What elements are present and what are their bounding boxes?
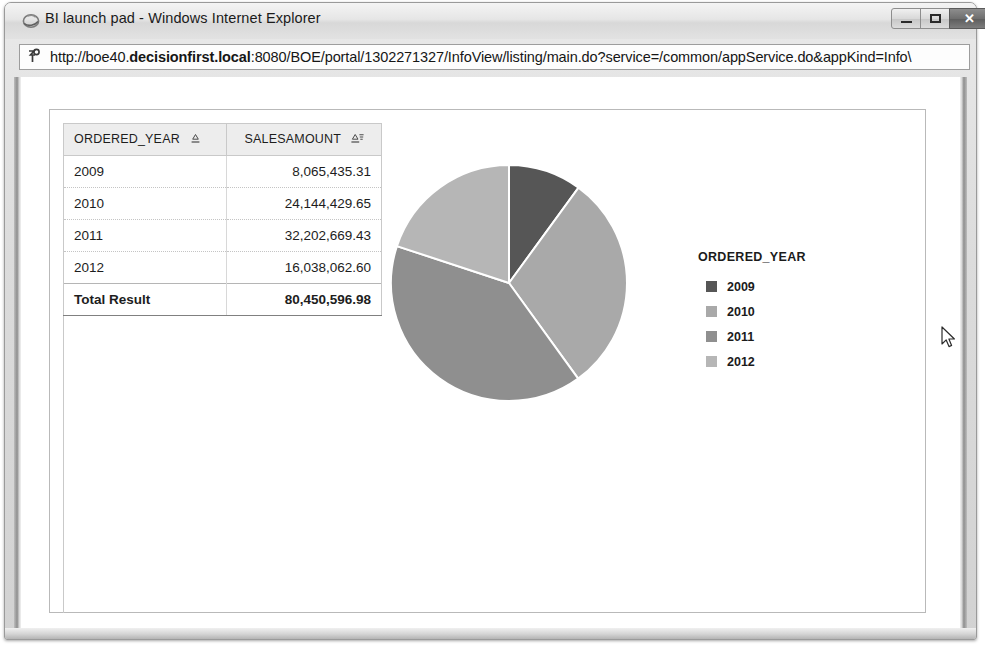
close-button[interactable]: ✕ [949, 8, 985, 29]
browser-window: BI launch pad - Windows Internet Explore… [4, 2, 977, 640]
sort-ascending-icon[interactable] [190, 133, 201, 147]
window-bottom-chrome [5, 628, 976, 639]
legend-item-label: 2009 [727, 280, 755, 294]
cell-total-label: Total Result [64, 284, 227, 316]
legend-swatch-icon [706, 306, 717, 317]
url-domain: decisionfirst.local [129, 49, 250, 65]
cell-total-amount: 80,450,596.98 [227, 284, 382, 316]
legend-swatch-icon [706, 331, 717, 342]
table-body: 20098,065,435.31201024,144,429.65201132,… [64, 156, 382, 316]
legend-item-label: 2011 [727, 330, 754, 344]
cell-ordered-year: 2011 [64, 220, 227, 252]
table-row[interactable]: 201216,038,062.60 [64, 252, 382, 284]
maximize-button[interactable] [920, 8, 950, 29]
table-header: ORDERED_YEAR SALESAMOUNT [64, 124, 382, 156]
page-favicon-icon [26, 48, 46, 66]
maximize-icon [930, 14, 941, 23]
cell-ordered-year: 2009 [64, 156, 227, 188]
cell-salesamount: 16,038,062.60 [227, 252, 382, 284]
column-header-ordered-year[interactable]: ORDERED_YEAR [64, 124, 227, 156]
legend-item[interactable]: 2010 [698, 299, 868, 324]
minimize-icon [901, 21, 912, 23]
pie-chart [389, 128, 629, 458]
table-total-row: Total Result80,450,596.98 [64, 284, 382, 316]
crosstab-table: ORDERED_YEAR SALESAMOUNT [63, 123, 382, 316]
address-bar-row: http://boe40.decisionfirst.local:8080/BO… [5, 39, 976, 73]
legend-item-label: 2012 [727, 355, 755, 369]
window-title: BI launch pad - Windows Internet Explore… [45, 10, 321, 26]
column-header-salesamount-label: SALESAMOUNT [244, 132, 340, 146]
cell-salesamount: 32,202,669.43 [227, 220, 382, 252]
table-row[interactable]: 201024,144,429.65 [64, 188, 382, 220]
sort-descending-filter-icon[interactable] [351, 133, 364, 147]
close-icon: ✕ [964, 11, 975, 26]
table-header-row: ORDERED_YEAR SALESAMOUNT [64, 124, 382, 156]
left-frame-strip [14, 77, 21, 630]
table-row[interactable]: 201132,202,669.43 [64, 220, 382, 252]
cell-salesamount: 8,065,435.31 [227, 156, 382, 188]
legend-item[interactable]: 2011 [698, 324, 868, 349]
minimize-button[interactable] [891, 8, 921, 29]
column-header-salesamount[interactable]: SALESAMOUNT [227, 124, 382, 156]
cell-ordered-year: 2012 [64, 252, 227, 284]
url-suffix: :8080/BOE/portal/1302271327/InfoView/lis… [251, 49, 912, 65]
pie-chart-svg [389, 163, 629, 403]
page-content-area: ORDERED_YEAR SALESAMOUNT [14, 77, 967, 630]
mouse-pointer-icon [941, 326, 957, 350]
address-url-text: http://boe40.decisionfirst.local:8080/BO… [50, 49, 912, 65]
legend-item[interactable]: 2009 [698, 274, 868, 299]
right-frame-strip [960, 77, 967, 630]
cell-ordered-year: 2010 [64, 188, 227, 220]
legend-item-label: 2010 [727, 305, 755, 319]
table-row[interactable]: 20098,065,435.31 [64, 156, 382, 188]
legend-swatch-icon [706, 281, 717, 292]
legend-item-list: 2009201020112012 [698, 274, 868, 374]
title-bar[interactable]: BI launch pad - Windows Internet Explore… [5, 3, 976, 39]
column-header-ordered-year-label: ORDERED_YEAR [74, 132, 180, 146]
legend-swatch-icon [706, 356, 717, 367]
legend-item[interactable]: 2012 [698, 349, 868, 374]
cell-salesamount: 24,144,429.65 [227, 188, 382, 220]
legend-title: ORDERED_YEAR [698, 250, 868, 264]
report-panel: ORDERED_YEAR SALESAMOUNT [49, 109, 926, 613]
url-prefix: http://boe40. [50, 49, 129, 65]
address-bar[interactable]: http://boe40.decisionfirst.local:8080/BO… [19, 44, 970, 70]
chart-legend: ORDERED_YEAR 2009201020112012 [698, 250, 868, 374]
ie-logo-icon [22, 12, 40, 30]
